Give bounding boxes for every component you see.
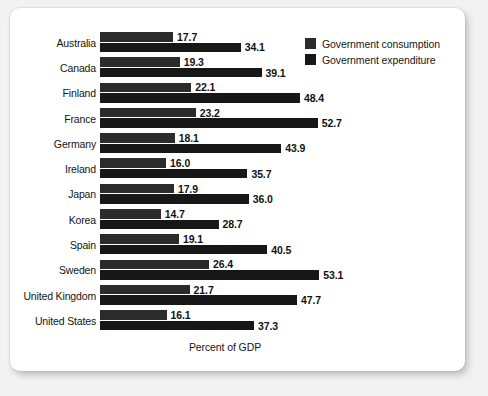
bar-value-label: 34.1 [241, 41, 265, 53]
bar-row: 39.1 [100, 68, 465, 78]
bar-expenditure [100, 245, 267, 255]
bar-value-label: 48.4 [300, 92, 324, 104]
bar-group: Korea14.728.7 [10, 207, 465, 232]
bar-row: 48.4 [100, 93, 465, 103]
bar-pair: 16.035.7 [100, 158, 465, 179]
bar-value-label: 16.0 [166, 157, 190, 169]
category-label: United States [10, 315, 96, 327]
bar-expenditure [100, 144, 281, 154]
bar-row: 19.3 [100, 57, 465, 67]
bar-row: 17.9 [100, 184, 465, 194]
bar-consumption [100, 184, 174, 194]
bar-consumption [100, 285, 190, 295]
bar-group: Finland22.148.4 [10, 81, 465, 106]
bar-row: 21.7 [100, 285, 465, 295]
bar-expenditure [100, 194, 249, 204]
bar-expenditure [100, 118, 318, 128]
category-label: Korea [10, 214, 96, 226]
bar-row: 53.1 [100, 270, 465, 280]
bar-chart: Government consumptionGovernment expendi… [10, 8, 465, 371]
bar-consumption [100, 310, 167, 320]
bar-row: 22.1 [100, 83, 465, 93]
bar-value-label: 19.1 [179, 233, 203, 245]
bar-group: France23.252.7 [10, 106, 465, 131]
bar-group: Sweden26.453.1 [10, 258, 465, 283]
bar-pair: 16.137.3 [100, 310, 465, 331]
bar-pair: 17.734.1 [100, 32, 465, 53]
bar-group: Australia17.734.1 [10, 30, 465, 55]
bar-value-label: 14.7 [161, 208, 185, 220]
bar-row: 52.7 [100, 118, 465, 128]
bar-consumption [100, 209, 161, 219]
bar-value-label: 53.1 [319, 269, 343, 281]
plot-area: Australia17.734.1Canada19.339.1Finland22… [10, 30, 465, 335]
bar-row: 43.9 [100, 144, 465, 154]
bar-consumption [100, 32, 173, 42]
bar-row: 23.2 [100, 108, 465, 118]
bar-pair: 22.148.4 [100, 83, 465, 104]
bar-group: Spain19.140.5 [10, 232, 465, 257]
bar-value-label: 21.7 [190, 284, 214, 296]
bar-row: 37.3 [100, 321, 465, 331]
bar-value-label: 35.7 [247, 168, 271, 180]
category-label: Canada [10, 62, 96, 74]
bar-pair: 19.339.1 [100, 57, 465, 78]
bar-pair: 19.140.5 [100, 234, 465, 255]
bar-row: 17.7 [100, 32, 465, 42]
bar-group: Japan17.936.0 [10, 182, 465, 207]
bar-pair: 26.453.1 [100, 260, 465, 281]
bar-expenditure [100, 43, 241, 53]
bar-consumption [100, 158, 166, 168]
bar-row: 14.7 [100, 209, 465, 219]
bar-expenditure [100, 220, 219, 230]
bar-value-label: 19.3 [180, 56, 204, 68]
bar-row: 26.4 [100, 260, 465, 270]
bar-row: 40.5 [100, 245, 465, 255]
bar-group: United Kingdom21.747.7 [10, 283, 465, 308]
bar-value-label: 17.9 [174, 183, 198, 195]
figure-card: Government consumptionGovernment expendi… [10, 8, 465, 371]
bar-expenditure [100, 68, 262, 78]
bar-row: 35.7 [100, 169, 465, 179]
bar-expenditure [100, 321, 254, 331]
bar-row: 34.1 [100, 43, 465, 53]
bar-value-label: 43.9 [281, 142, 305, 154]
x-axis-title: Percent of GDP [10, 341, 440, 353]
bar-value-label: 23.2 [196, 107, 220, 119]
bar-pair: 21.747.7 [100, 285, 465, 306]
category-label: Germany [10, 138, 96, 150]
bar-row: 47.7 [100, 295, 465, 305]
bar-value-label: 37.3 [254, 320, 278, 332]
bar-row: 16.0 [100, 158, 465, 168]
bar-value-label: 18.1 [175, 132, 199, 144]
bar-value-label: 28.7 [219, 218, 243, 230]
bar-value-label: 17.7 [173, 31, 197, 43]
bar-value-label: 22.1 [191, 81, 215, 93]
bar-consumption [100, 108, 196, 118]
bar-value-label: 39.1 [262, 67, 286, 79]
bar-value-label: 26.4 [209, 258, 233, 270]
category-label: Spain [10, 239, 96, 251]
bar-group: Canada19.339.1 [10, 55, 465, 80]
bar-row: 36.0 [100, 194, 465, 204]
category-label: Ireland [10, 163, 96, 175]
bar-expenditure [100, 169, 247, 179]
bar-consumption [100, 83, 191, 93]
bar-group: United States16.137.3 [10, 308, 465, 333]
bar-row: 19.1 [100, 234, 465, 244]
bar-value-label: 52.7 [318, 117, 342, 129]
bar-pair: 17.936.0 [100, 184, 465, 205]
bar-value-label: 40.5 [267, 244, 291, 256]
bar-value-label: 47.7 [297, 294, 321, 306]
category-label: Sweden [10, 264, 96, 276]
bar-row: 16.1 [100, 310, 465, 320]
bar-pair: 14.728.7 [100, 209, 465, 230]
category-label: United Kingdom [10, 290, 96, 302]
bar-group: Ireland16.035.7 [10, 156, 465, 181]
bar-consumption [100, 57, 180, 67]
category-label: Australia [10, 37, 96, 49]
bar-expenditure [100, 93, 300, 103]
bar-expenditure [100, 270, 319, 280]
category-label: Japan [10, 188, 96, 200]
bar-row: 28.7 [100, 220, 465, 230]
